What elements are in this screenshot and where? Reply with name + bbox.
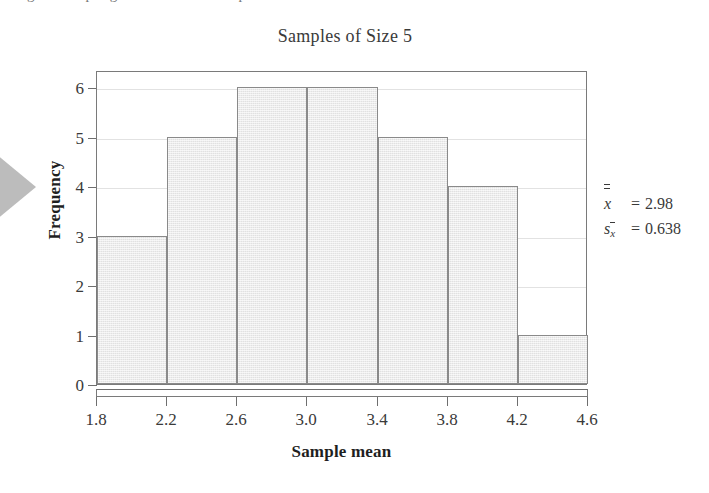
y-tick-label: 4 [52, 187, 84, 188]
mean-symbol: x [604, 192, 626, 217]
std-error-equals: = [631, 220, 640, 237]
histogram-bars [97, 72, 586, 384]
x-tick-label: 4.6 [562, 410, 612, 430]
margin-arrow-icon [0, 148, 38, 226]
x-axis-title: Sample mean [96, 442, 587, 462]
y-tick-label-text: 1 [76, 327, 85, 347]
x-tick-label: 2.2 [141, 410, 191, 430]
plot-area [96, 71, 587, 385]
x-tick-mark [306, 397, 307, 406]
y-tick-label: 5 [52, 138, 84, 139]
histogram-bar [307, 87, 377, 384]
y-axis-title: Frequency [45, 135, 65, 265]
std-error-statistic: sx=0.638 [604, 217, 681, 242]
x-tick-label: 3.0 [281, 410, 331, 430]
y-tick-label: 1 [52, 336, 84, 337]
x-tick-mark [587, 397, 588, 406]
chart-title: Samples of Size 5 [0, 26, 690, 47]
x-tick-label: 3.8 [422, 410, 472, 430]
x-axis-rule [96, 389, 588, 397]
x-tick-mark [236, 397, 237, 406]
y-tick-label: 0 [52, 385, 84, 386]
y-tick-label-text: 4 [76, 178, 85, 198]
mean-statistic: x=2.98 [604, 192, 681, 217]
histogram-bar [378, 137, 448, 384]
x-tick-mark [517, 397, 518, 406]
std-error-value: 0.638 [645, 220, 681, 237]
x-tick-mark [166, 397, 167, 406]
histogram-bar [97, 236, 167, 384]
x-tick-label: 1.8 [71, 410, 121, 430]
histogram-bar [518, 335, 588, 384]
page-caption-sliver: Figure Sampling distribution of sample m… [0, 0, 709, 9]
std-error-subscript: x [610, 227, 615, 239]
x-tick-mark [377, 397, 378, 406]
histogram-bar [237, 87, 307, 384]
mean-value: 2.98 [645, 195, 673, 212]
page-caption-text: Figure Sampling distribution of sample m… [14, 0, 301, 3]
y-tick-label-text: 5 [76, 129, 85, 149]
x-tick-label: 4.2 [492, 410, 542, 430]
histogram-bar [167, 137, 237, 384]
y-tick-label-text: 6 [76, 79, 85, 99]
mean-equals: = [631, 195, 640, 212]
x-tick-label: 2.6 [211, 410, 261, 430]
statistics-annotation: x=2.98 sx=0.638 [604, 192, 681, 242]
std-error-symbol: sx [604, 217, 626, 242]
y-tick-label: 6 [52, 88, 84, 89]
histogram-bar [448, 186, 518, 384]
x-tick-mark [447, 397, 448, 406]
y-tick-label-text: 0 [76, 376, 85, 396]
x-tick-label: 3.4 [352, 410, 402, 430]
y-tick-label: 3 [52, 237, 84, 238]
y-tick-mark [88, 385, 97, 386]
x-tick-mark [96, 397, 97, 406]
y-tick-label-text: 2 [76, 277, 85, 297]
y-tick-label: 2 [52, 286, 84, 287]
y-tick-label-text: 3 [76, 228, 85, 248]
